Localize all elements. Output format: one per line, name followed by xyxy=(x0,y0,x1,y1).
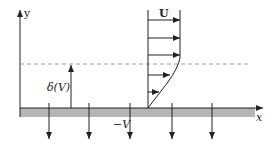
suction-label: −V xyxy=(113,118,131,131)
boundary-layer-diagram: y x δ(V) U −V xyxy=(0,0,276,150)
thickness-label: δ(V) xyxy=(47,81,70,94)
plate xyxy=(20,108,255,117)
free-stream-label: U xyxy=(159,7,169,20)
x-axis-label: x xyxy=(256,111,263,124)
y-axis-label: y xyxy=(23,7,31,20)
velocity-profile-curve xyxy=(148,10,180,108)
